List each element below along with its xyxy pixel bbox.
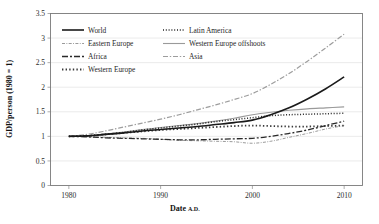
y-tick-label: 2.5: [36, 58, 46, 67]
chart-canvas: 00.511.522.533.5 1980199020002010 WorldL…: [0, 0, 379, 224]
legend-item-eastern-europe[interactable]: Eastern Europe: [62, 39, 134, 48]
y-axis-tick-labels: 00.511.522.533.5: [36, 9, 46, 190]
y-tick-label: 0.5: [36, 157, 46, 166]
x-axis-title-era-suffix: A.D.: [188, 206, 200, 212]
y-axis-title: GDP/person (1980 = 1): [5, 60, 14, 138]
gdp-per-person-line-chart: 00.511.522.533.5 1980199020002010 WorldL…: [0, 0, 379, 224]
y-tick-label: 2: [41, 83, 45, 92]
x-tick-label: 1990: [153, 191, 168, 200]
y-tick-label: 3: [41, 34, 45, 43]
legend-label: Asia: [189, 52, 203, 61]
y-tick-label: 3.5: [36, 9, 46, 18]
legend-label: Latin America: [189, 26, 232, 35]
y-tick-label: 0: [41, 181, 45, 190]
legend-item-world[interactable]: World: [62, 26, 107, 35]
legend-label: World: [88, 26, 107, 35]
x-axis-title: Date: [170, 204, 186, 213]
legend-label: Western Europe offshoots: [189, 39, 266, 48]
x-tick-label: 2000: [245, 191, 260, 200]
legend-label: Eastern Europe: [88, 39, 134, 48]
series-line-asia: [69, 34, 344, 136]
legend-label: Africa: [88, 52, 108, 61]
legend-item-western-europe[interactable]: Western Europe: [62, 65, 136, 74]
legend-label: Western Europe: [88, 65, 136, 74]
legend-item-western-europe-offshoots[interactable]: Western Europe offshoots: [163, 39, 266, 48]
data-series-group: [69, 34, 344, 143]
series-line-western-europe-offshoots: [69, 107, 344, 136]
chart-legend: WorldLatin AmericaEastern EuropeWestern …: [62, 26, 266, 75]
x-axis-tick-labels: 1980199020002010: [61, 191, 352, 200]
x-tick-label: 1980: [61, 191, 76, 200]
y-tick-label: 1.5: [36, 107, 46, 116]
y-gridlines: [51, 14, 363, 161]
y-tick-label: 1: [41, 132, 45, 141]
legend-item-asia[interactable]: Asia: [163, 52, 203, 61]
x-tick-label: 2010: [337, 191, 352, 200]
legend-item-latin-america[interactable]: Latin America: [163, 26, 232, 35]
legend-item-africa[interactable]: Africa: [62, 52, 108, 61]
